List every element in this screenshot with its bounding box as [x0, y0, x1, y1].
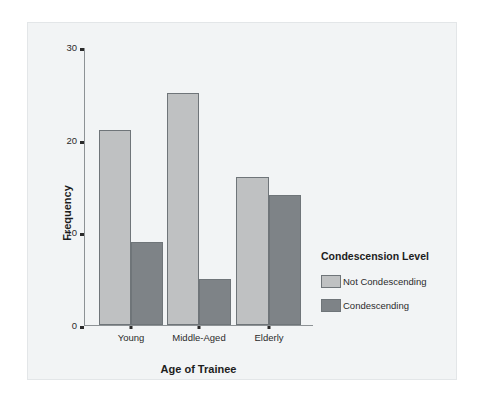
bar-elderly-not-condescending [236, 177, 269, 325]
legend-swatch-condescending [321, 299, 341, 312]
legend-item-not-condescending: Not Condescending [321, 275, 461, 288]
bar-young-not-condescending [99, 130, 131, 325]
y-tick-label-0: 0 [72, 321, 77, 331]
x-axis-title: Age of Trainee [84, 363, 313, 375]
plot-area: 30 20 10 0 Young Middle-Aged [84, 48, 311, 326]
y-axis-title: Frequency [61, 185, 73, 241]
bar-young-condescending [131, 242, 163, 325]
bar-elderly-condescending [269, 195, 301, 325]
bar-middle-aged-not-condescending [167, 93, 199, 325]
legend-label-condescending: Condescending [343, 300, 409, 311]
legend-item-condescending: Condescending [321, 299, 461, 312]
legend-title: Condescension Level [321, 250, 461, 262]
legend-swatch-not-condescending [321, 275, 341, 288]
x-tick-label-elderly: Elderly [254, 333, 283, 343]
y-axis-line [84, 48, 85, 326]
legend-label-not-condescending: Not Condescending [343, 276, 426, 287]
legend: Condescension Level Not Condescending Co… [321, 250, 461, 323]
chart-frame: 30 20 10 0 Young Middle-Aged [27, 22, 457, 380]
y-tick-label-30: 30 [66, 43, 77, 53]
y-tick-label-20: 20 [66, 136, 77, 146]
x-tick-label-young: Young [118, 333, 145, 343]
bar-middle-aged-condescending [199, 279, 231, 325]
x-tick-label-middle-aged: Middle-Aged [172, 333, 225, 343]
